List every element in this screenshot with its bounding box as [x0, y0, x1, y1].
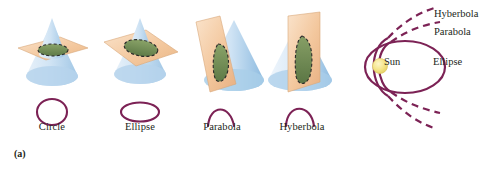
orbit-path-hyperbola-dashed-lower [388, 96, 434, 128]
panel-a-conic-sections: Circle [0, 0, 350, 173]
orbit-label-parabola: Parabola [434, 26, 471, 37]
cone-unit-hyperbola: Hyberbola [258, 4, 346, 134]
cone-unit-circle: Circle [8, 4, 96, 134]
conic-label-ellipse: Ellipse [96, 121, 184, 132]
orbit-path-parabola-dashed-upper [391, 22, 440, 42]
cone-unit-parabola: Parabola [178, 4, 266, 134]
panel-a-caption: (a) [14, 148, 26, 159]
orbit-label-hyperbola: Hyberbola [434, 8, 478, 19]
conic-sections-figure: Circle [0, 0, 495, 173]
orbit-path-hyperbola-dashed-upper [388, 8, 434, 38]
panel-b-orbits: Hyberbola Parabola Ellipse Sun (b) [350, 0, 495, 173]
sun-label: Sun [384, 56, 400, 67]
conic-label-parabola: Parabola [178, 121, 266, 132]
orbit-diagram [350, 0, 495, 140]
conic-label-hyperbola: Hyberbola [258, 121, 346, 132]
orbit-label-ellipse: Ellipse [433, 56, 462, 67]
cone-unit-ellipse: Ellipse [96, 4, 184, 134]
orbit-path-parabola-dashed-lower [391, 92, 440, 113]
conic-label-circle: Circle [8, 121, 96, 132]
